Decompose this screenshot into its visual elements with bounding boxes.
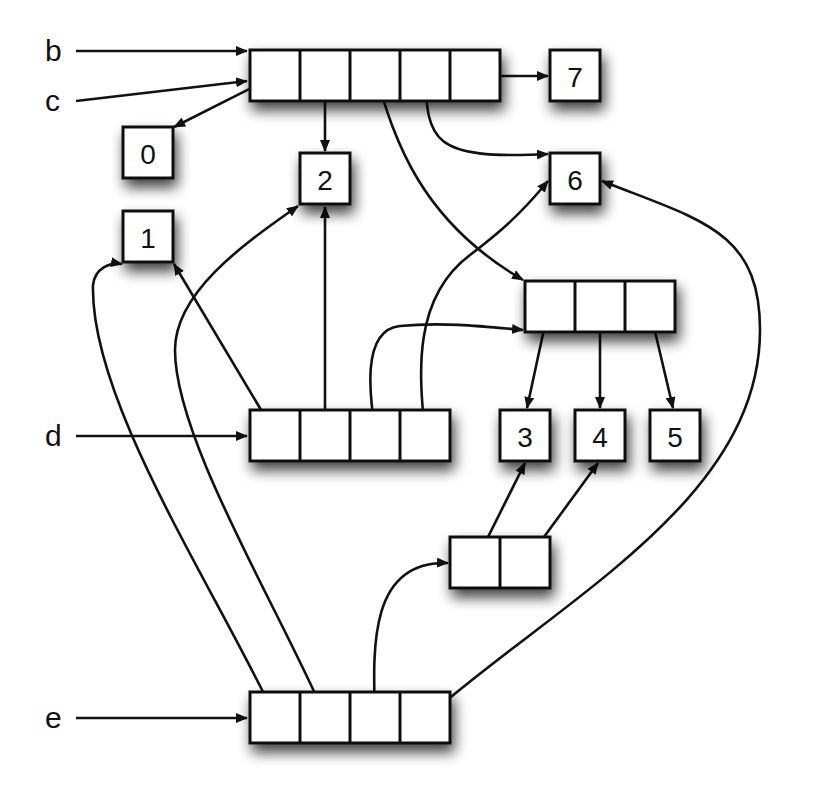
array-frame (250, 50, 500, 101)
value-label: 0 (140, 139, 156, 170)
array-arrE (250, 692, 450, 743)
variable-label-e: e (45, 701, 62, 734)
value-label: 2 (317, 165, 333, 196)
variable-label-d: d (45, 419, 62, 452)
value-label: 4 (592, 422, 608, 453)
value-label: 6 (567, 165, 583, 196)
array-arrP (450, 537, 550, 588)
array-arrD (250, 410, 450, 461)
variable-label-b: b (45, 34, 62, 67)
variable-arrow (76, 81, 247, 101)
reference-arrow (93, 264, 276, 718)
reference-arrow (376, 76, 523, 280)
value-label: 1 (140, 223, 156, 254)
value-label: 7 (567, 62, 583, 93)
array-frame (525, 281, 675, 332)
value-label: 3 (517, 422, 533, 453)
value-label: 5 (667, 422, 683, 453)
variable-label-c: c (45, 84, 60, 117)
array-arrB (525, 281, 675, 332)
reference-diagram: 01234567bcde (0, 0, 813, 798)
array-arrA (250, 50, 500, 101)
